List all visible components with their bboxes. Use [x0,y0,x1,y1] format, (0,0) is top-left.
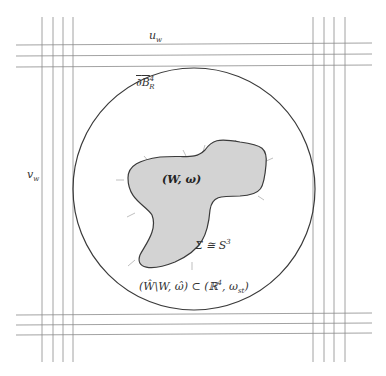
label-sigma: Σ ≅ S3 [195,240,231,251]
label-boundary-sub: R [149,83,154,91]
label-complement-left: (Ŵ\W, ω̂) ⊂ (ℝ [139,280,218,293]
label-complement-right: ) [244,280,248,293]
grid-top-horizontals [16,43,372,67]
grid-left-verticals [42,17,73,362]
label-ball-boundary: ∂B4R [136,77,155,88]
label-sigma-main: Σ ≅ S [195,239,226,252]
label-complement-mid: , ω [222,280,238,293]
label-v-w-sub: w [33,175,39,183]
label-u-w-sub: w [156,36,162,44]
label-u-w: uw [149,30,162,41]
label-complement: (Ŵ\W, ω̂) ⊂ (ℝ4, ωst) [139,281,249,292]
label-v-w: vw [27,169,39,180]
grid-bottom-horizontals [16,313,372,335]
label-sigma-sup: 3 [226,238,230,246]
diagram-canvas [0,0,386,376]
label-filling: (W, ω) [162,174,201,185]
grid-right-verticals [313,17,345,362]
